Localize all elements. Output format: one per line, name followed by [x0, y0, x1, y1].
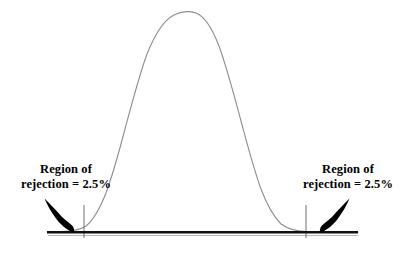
right-rejection-region-label-line2: rejection = 2.5%: [292, 177, 404, 192]
distribution-chart-canvas: [0, 0, 407, 256]
right-rejection-region-label: Region of rejection = 2.5%: [292, 162, 404, 192]
left-rejection-region-label-line2: rejection = 2.5%: [10, 177, 122, 192]
rejection-region-figure: Region of rejection = 2.5% Region of rej…: [0, 0, 407, 256]
right-rejection-arrow: [320, 199, 350, 234]
left-rejection-region-label-line1: Region of: [10, 162, 122, 177]
right-rejection-region-label-line1: Region of: [292, 162, 404, 177]
normal-distribution-curve: [48, 12, 358, 232]
left-rejection-region-label: Region of rejection = 2.5%: [10, 162, 122, 192]
left-rejection-arrow: [45, 199, 75, 234]
